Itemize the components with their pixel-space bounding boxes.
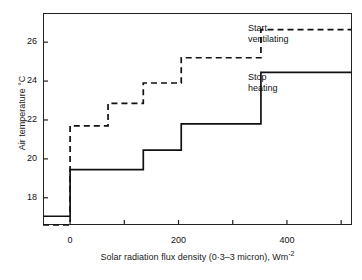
x-axis-title-text: Solar radiation flux density (0·3–3 micr… — [101, 252, 289, 262]
annotation-stop-heating-line1: Stop — [248, 72, 278, 83]
x-axis-title-exponent: -2 — [288, 250, 294, 257]
y-tick-label: 26 — [13, 36, 37, 46]
chart-figure: 1820222426 0200400 Air temperature °C So… — [0, 0, 362, 280]
x-tick-label: 0 — [50, 235, 90, 245]
y-axis-ticks — [43, 42, 48, 198]
y-axis-title: Air temperature °C — [17, 53, 27, 173]
x-tick-label: 200 — [159, 235, 199, 245]
data-series-group — [43, 30, 352, 225]
x-tick-label: 400 — [267, 235, 307, 245]
x-axis-ticks — [70, 220, 341, 225]
y-tick-label: 18 — [13, 192, 37, 202]
series-path-stop-heating — [43, 72, 352, 216]
annotation-start-ventilating: Start ventilating — [248, 23, 289, 45]
annotation-start-ventilating-line2: ventilating — [248, 34, 289, 45]
x-axis-title: Solar radiation flux density (0·3–3 micr… — [43, 250, 352, 262]
series-path-start-ventilating — [43, 30, 352, 225]
annotation-stop-heating: Stop heating — [248, 72, 278, 94]
annotation-stop-heating-line2: heating — [248, 83, 278, 94]
annotation-start-ventilating-line1: Start — [248, 23, 289, 34]
